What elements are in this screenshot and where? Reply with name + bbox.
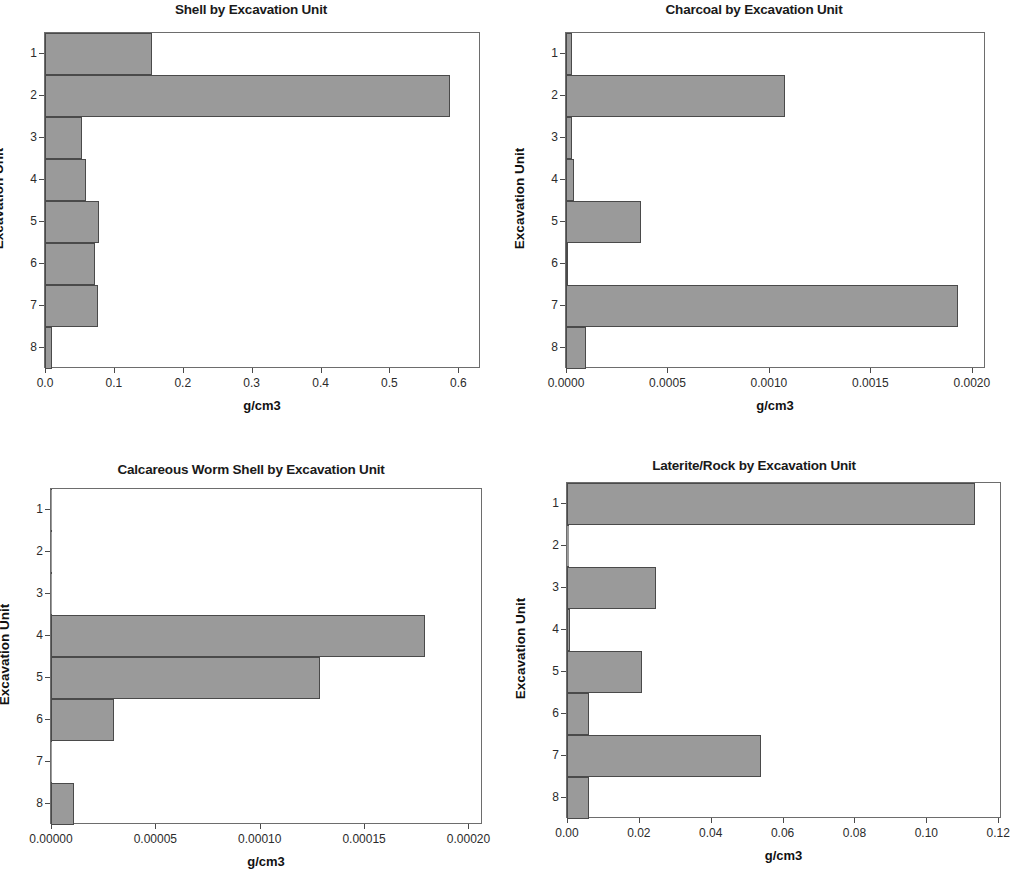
x-axis-label: g/cm3 [756, 398, 794, 413]
bar [45, 159, 86, 201]
x-tick-label: 0.00005 [134, 832, 177, 846]
y-tick-label: 4 [551, 172, 558, 186]
x-axis-label: g/cm3 [765, 848, 803, 863]
x-tick-mark [783, 818, 784, 823]
x-tick-label: 0.1 [106, 376, 123, 390]
x-tick-label: 0.0010 [751, 376, 788, 390]
x-tick-mark [389, 368, 390, 373]
y-axis-label: Excavation Unit [0, 487, 12, 823]
y-tick-label: 2 [30, 88, 37, 102]
y-tick-mark [560, 347, 565, 348]
y-tick-label: 4 [36, 628, 43, 642]
y-tick-label: 6 [30, 256, 37, 270]
y-tick-label: 5 [30, 214, 37, 228]
x-tick-label: 0.06 [771, 826, 794, 840]
y-tick-label: 6 [36, 712, 43, 726]
bar [567, 651, 642, 693]
y-tick-mark [561, 713, 566, 714]
x-tick-mark [972, 368, 973, 373]
y-tick-mark [45, 509, 50, 510]
y-tick-mark [560, 137, 565, 138]
y-tick-label: 1 [36, 502, 43, 516]
x-tick-label: 0.10 [915, 826, 938, 840]
y-tick-mark [45, 803, 50, 804]
y-tick-label: 3 [551, 130, 558, 144]
y-tick-label: 3 [36, 586, 43, 600]
bar [567, 735, 761, 777]
x-tick-mark [155, 824, 156, 829]
y-axis-label: Excavation Unit [512, 31, 527, 367]
x-tick-label: 0.0020 [953, 376, 990, 390]
bar [51, 741, 52, 783]
bar [51, 489, 52, 531]
x-tick-mark [567, 818, 568, 823]
plot-area [44, 32, 480, 368]
x-tick-mark [321, 368, 322, 373]
bar [567, 483, 975, 525]
x-tick-mark [854, 818, 855, 823]
y-tick-mark [39, 221, 44, 222]
bar [566, 117, 572, 159]
x-tick-mark [114, 368, 115, 373]
y-tick-label: 4 [552, 622, 559, 636]
bar [567, 567, 656, 609]
bar [45, 327, 52, 369]
x-tick-label: 0.2 [174, 376, 191, 390]
x-tick-mark [468, 824, 469, 829]
y-tick-mark [560, 263, 565, 264]
bar [51, 615, 425, 657]
bar [567, 525, 569, 567]
x-tick-label: 0.3 [243, 376, 260, 390]
y-tick-mark [45, 593, 50, 594]
y-tick-label: 8 [36, 796, 43, 810]
x-tick-label: 0.00020 [447, 832, 490, 846]
x-tick-label: 0.4 [312, 376, 329, 390]
y-tick-mark [45, 677, 50, 678]
bar [566, 33, 572, 75]
y-tick-label: 1 [551, 46, 558, 60]
y-tick-label: 7 [551, 298, 558, 312]
chart-panel-calcareous-worm-shell: Calcareous Worm Shell by Excavation Unit… [0, 440, 502, 875]
y-tick-mark [39, 137, 44, 138]
x-tick-label: 0.04 [699, 826, 722, 840]
bar [51, 657, 320, 699]
y-tick-mark [560, 305, 565, 306]
y-tick-label: 1 [552, 496, 559, 510]
chart-title: Shell by Excavation Unit [0, 2, 502, 17]
bar [51, 573, 52, 615]
y-tick-label: 6 [551, 256, 558, 270]
x-tick-mark [260, 824, 261, 829]
x-tick-label: 0.0 [37, 376, 54, 390]
y-tick-mark [561, 587, 566, 588]
y-tick-mark [560, 179, 565, 180]
x-tick-label: 0.00 [555, 826, 578, 840]
y-tick-mark [561, 797, 566, 798]
bar [51, 783, 74, 825]
x-tick-label: 0.6 [450, 376, 467, 390]
bar [45, 75, 450, 117]
x-tick-label: 0.08 [843, 826, 866, 840]
x-tick-label: 0.0000 [548, 376, 585, 390]
y-tick-mark [45, 719, 50, 720]
y-tick-mark [39, 95, 44, 96]
x-tick-mark [639, 818, 640, 823]
y-tick-label: 4 [30, 172, 37, 186]
plot-area [565, 32, 985, 368]
y-tick-label: 7 [30, 298, 37, 312]
x-tick-mark [870, 368, 871, 373]
bar [51, 531, 52, 573]
bar [567, 693, 589, 735]
x-tick-mark [458, 368, 459, 373]
y-tick-mark [560, 53, 565, 54]
y-tick-mark [560, 95, 565, 96]
x-tick-mark [998, 818, 999, 823]
y-tick-label: 8 [551, 340, 558, 354]
y-tick-mark [561, 629, 566, 630]
y-tick-mark [561, 503, 566, 504]
x-tick-mark [926, 818, 927, 823]
x-axis-label: g/cm3 [247, 854, 285, 869]
y-tick-label: 6 [552, 706, 559, 720]
bar [45, 285, 98, 327]
x-tick-label: 0.0015 [852, 376, 889, 390]
chart-panel-shell: Shell by Excavation Unit Excavation Unit… [0, 0, 502, 437]
